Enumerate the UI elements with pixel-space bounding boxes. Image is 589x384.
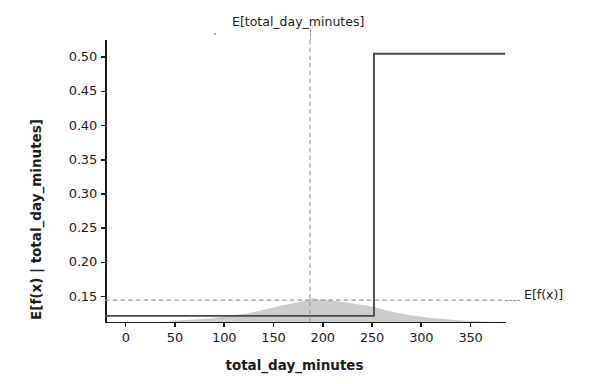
expected-model-output-label: E[f(x)] (524, 287, 563, 302)
y-tick-label: 0.25 (43, 220, 97, 235)
y-tick-label: 0.20 (43, 254, 97, 269)
y-tick-label: 0.15 (43, 289, 97, 304)
x-tick-mark (371, 322, 373, 327)
x-tick-mark (174, 322, 176, 327)
x-tick-mark (125, 322, 127, 327)
dependence-step-line (105, 54, 505, 316)
shap-dependence-figure: E[total_day_minutes] E[f(x)] E[f(x) | to… (0, 0, 589, 384)
x-tick-mark (420, 322, 422, 327)
expected-feature-leader-line (310, 29, 311, 40)
expected-output-leader-line (505, 300, 520, 301)
x-axis-title: total_day_minutes (0, 357, 589, 373)
x-tick-mark (223, 322, 225, 327)
x-tick-label: 350 (441, 330, 501, 345)
x-tick-mark (470, 322, 472, 327)
expected-feature-value-label: E[total_day_minutes] (232, 14, 364, 29)
y-tick-label: 0.45 (43, 83, 97, 98)
y-tick-label: 0.35 (43, 152, 97, 167)
x-tick-mark (273, 322, 275, 327)
y-tick-label: 0.30 (43, 186, 97, 201)
plot-area (105, 40, 505, 322)
feature-distribution-area (105, 298, 505, 322)
plot-canvas (105, 40, 505, 322)
y-tick-label: 0.40 (43, 118, 97, 133)
y-axis-title: E[f(x) | total_day_minutes] (28, 119, 44, 320)
x-tick-mark (322, 322, 324, 327)
y-tick-label: 0.50 (43, 49, 97, 64)
stray-marker-dot (214, 33, 216, 35)
